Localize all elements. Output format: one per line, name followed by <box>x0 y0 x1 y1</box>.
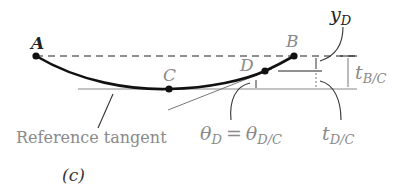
label-a: A <box>29 33 44 53</box>
label-d: D <box>239 55 254 75</box>
beam-deflection-diagram: A B C D yD tB/C tD/C θD=θD/C Reference t… <box>0 0 404 193</box>
label-tdc: tD/C <box>322 122 354 147</box>
label-b: B <box>285 31 299 51</box>
point-a-dot <box>32 52 39 59</box>
panel-label: (c) <box>62 165 85 185</box>
tdc-leader <box>320 81 341 120</box>
label-reference-tangent: Reference tangent <box>16 128 167 147</box>
reference-tangent-leader <box>98 94 113 128</box>
point-b-dot <box>290 52 297 59</box>
label-tbc: tB/C <box>355 61 387 86</box>
label-theta: θD=θD/C <box>200 122 282 147</box>
point-d-dot <box>261 67 268 74</box>
label-c: C <box>163 65 176 85</box>
point-c-dot <box>165 85 172 92</box>
label-yd: yD <box>329 3 352 28</box>
